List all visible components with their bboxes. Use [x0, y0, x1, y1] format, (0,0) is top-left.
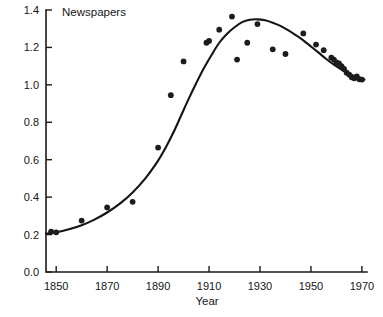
data-point — [53, 229, 59, 235]
data-point — [104, 205, 110, 211]
fitted-curve-series — [46, 19, 364, 233]
data-point — [321, 47, 327, 53]
y-axis-tick-labels: 0.00.20.40.60.81.01.21.4 — [24, 4, 39, 278]
data-point — [216, 27, 222, 33]
series-fitted-curve — [46, 19, 364, 233]
data-point — [283, 51, 289, 57]
data-point — [270, 46, 276, 52]
y-tick-label-0.2: 0.2 — [24, 229, 39, 241]
data-point — [79, 218, 85, 224]
y-tick-label-0.6: 0.6 — [24, 154, 39, 166]
y-tick-label-0.4: 0.4 — [24, 191, 39, 203]
data-point — [168, 92, 174, 98]
data-point — [234, 57, 240, 63]
axis-spines — [46, 10, 367, 272]
data-point — [244, 40, 250, 46]
y-tick-label-0.0: 0.0 — [24, 266, 39, 278]
y-tick-label-0.8: 0.8 — [24, 116, 39, 128]
data-point — [313, 42, 319, 48]
data-point — [359, 77, 365, 83]
axes — [46, 10, 367, 272]
x-tick-label-1930: 1930 — [248, 280, 272, 292]
data-point-series — [48, 14, 365, 236]
data-point — [155, 145, 161, 151]
x-axis-title: Year — [195, 295, 218, 307]
data-point — [255, 21, 261, 27]
y-tick-label-1.0: 1.0 — [24, 79, 39, 91]
plot-title: Newspapers — [62, 6, 126, 18]
data-point — [48, 229, 54, 235]
data-point — [300, 30, 306, 36]
y-tick-label-1.4: 1.4 — [24, 4, 39, 16]
x-axis-tick-labels: 1850187018901910193019501970 — [44, 280, 374, 292]
x-tick-label-1950: 1950 — [299, 280, 323, 292]
data-point — [181, 59, 187, 65]
x-tick-label-1910: 1910 — [197, 280, 221, 292]
data-point — [229, 14, 235, 20]
y-tick-label-1.2: 1.2 — [24, 41, 39, 53]
x-tick-label-1870: 1870 — [95, 280, 119, 292]
x-tick-label-1890: 1890 — [146, 280, 170, 292]
x-tick-label-1970: 1970 — [350, 280, 374, 292]
x-tick-label-1850: 1850 — [44, 280, 68, 292]
data-point — [130, 199, 136, 205]
newspapers-scatter-chart: 0.00.20.40.60.81.01.21.4 185018701890191… — [0, 0, 383, 317]
chart-figure: 0.00.20.40.60.81.01.21.4 185018701890191… — [0, 0, 383, 317]
data-point — [206, 38, 212, 44]
